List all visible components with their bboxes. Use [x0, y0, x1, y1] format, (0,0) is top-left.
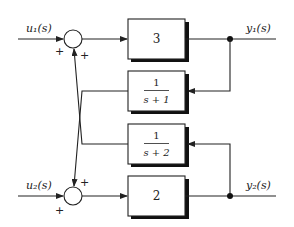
wire-feedback2-to-sum1: [74, 49, 128, 144]
summer-2-circle: [64, 187, 82, 205]
summing-junction-1: + +: [55, 30, 89, 62]
summer-1-input-sign: +: [55, 45, 64, 58]
block-feedback-2: 1 s + 2: [128, 124, 189, 167]
summer-1-feedback-sign: +: [80, 49, 89, 62]
block-feedback-1-denominator: s + 1: [143, 94, 169, 105]
block-feedback-1: 1 s + 1: [128, 71, 189, 114]
wire-feedback1-to-sum2: [74, 91, 128, 186]
summer-2-input-sign: +: [55, 204, 64, 217]
block-feedback-2-denominator: s + 2: [143, 147, 169, 158]
input-u1: u₁(s): [18, 22, 63, 39]
block-diagram: u₁(s) + + 3 y₁(s) 1 s + 1 1 s + 2: [0, 0, 294, 227]
block-feedback-1-numerator: 1: [153, 77, 159, 88]
summer-2-feedback-sign: +: [80, 176, 89, 189]
block-forward-1: 3: [128, 19, 189, 62]
input-u2-label: u₂(s): [26, 179, 52, 192]
summer-1-circle: [64, 30, 82, 48]
output-y1-label: y₁(s): [245, 22, 271, 35]
junction-dot-y2: [227, 193, 233, 199]
block-forward-2: 2: [128, 176, 189, 219]
wire-y2-feedback: [188, 144, 230, 196]
block-forward-2-gain: 2: [153, 189, 161, 203]
input-u1-label: u₁(s): [26, 22, 52, 35]
input-u2: u₂(s): [18, 179, 63, 196]
output-y2-label: y₂(s): [245, 179, 271, 192]
block-forward-1-gain: 3: [153, 32, 161, 46]
wire-y1-feedback: [188, 39, 230, 91]
block-feedback-2-numerator: 1: [153, 130, 159, 141]
